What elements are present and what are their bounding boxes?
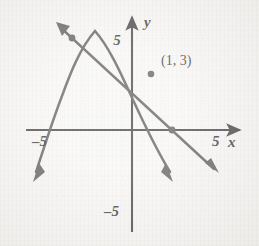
x-axis-tick-neg5: –5 <box>31 133 48 149</box>
y-axis-tick-neg5: –5 <box>103 203 120 219</box>
y-axis-tick-5: 5 <box>113 32 121 48</box>
x-axis-label: x <box>227 134 236 150</box>
marker-left-intersection <box>69 35 76 42</box>
x-axis-tick-5: 5 <box>212 133 220 149</box>
coordinate-plot: 5 y –5 5 x –5 (1, 3) <box>0 0 259 246</box>
y-axis-label: y <box>142 14 151 30</box>
marker-right-intersection <box>169 127 176 134</box>
graph-figure: 5 y –5 5 x –5 (1, 3) <box>0 0 259 246</box>
marker-labeled-point <box>148 71 155 78</box>
point-annotation-label: (1, 3) <box>161 53 192 69</box>
